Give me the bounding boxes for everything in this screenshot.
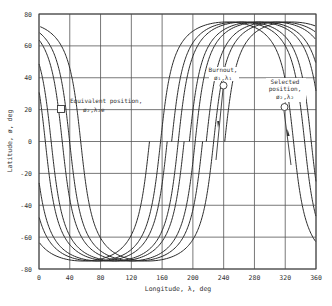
ground-track-line [40, 142, 150, 262]
equivalent-position-annotation: Equivalent position, ø₂,λ₂e [39, 97, 142, 113]
x-tick-label: 200 [187, 274, 199, 282]
circle-marker-icon [220, 82, 227, 89]
y-tick-label: -60 [20, 234, 32, 242]
burnout-label: Burnout, [209, 66, 238, 73]
x-axis-label: Longitude, λ, deg [145, 285, 212, 293]
square-marker-icon [58, 106, 65, 113]
selected-position-label-line2: position, [269, 85, 302, 93]
x-tick-label: 280 [249, 274, 261, 282]
selected-position-sublabel: ø₂,λ₂ [276, 93, 294, 100]
selected-position-annotation: Selectedposition, ø₂,λ₂ [266, 78, 306, 165]
x-tick-label: 80 [97, 274, 105, 282]
x-tick-labels: 04080120160200240280320360 [37, 274, 322, 282]
x-tick-label: 360 [310, 274, 322, 282]
y-tick-label: 0 [28, 138, 32, 146]
selected-position-label: Selectedposition, [269, 78, 302, 93]
y-tick-label: 20 [24, 106, 32, 114]
x-tick-label: 0 [37, 274, 41, 282]
y-tick-label: 80 [24, 11, 32, 19]
y-tick-labels: -80-60-40-20020406080 [20, 11, 32, 274]
equivalent-position-label: Equivalent position, [70, 97, 142, 105]
x-tick-label: 160 [156, 274, 168, 282]
circle-marker-icon [281, 104, 288, 111]
x-tick-label: 40 [66, 274, 74, 282]
equivalent-position-sublabel: ø₂,λ₂e [83, 106, 105, 113]
x-tick-label: 320 [279, 274, 291, 282]
y-tick-label: -20 [20, 170, 32, 178]
burnout-sublabel: ø₁,λ₁ [214, 74, 232, 81]
x-tick-label: 240 [218, 274, 230, 282]
y-tick-label: -40 [20, 202, 32, 210]
arrow-up-icon [287, 129, 290, 136]
y-axis-label: Latitude, ø, deg [6, 110, 14, 173]
ground-track-chart: -80-60-40-20020406080 040801201602002402… [0, 0, 332, 306]
y-tick-label: 60 [24, 42, 32, 50]
selected-position-label-line1: Selected [271, 78, 300, 85]
y-tick-label: 40 [24, 74, 32, 82]
y-tick-label: -80 [20, 266, 32, 274]
x-tick-label: 120 [125, 274, 137, 282]
